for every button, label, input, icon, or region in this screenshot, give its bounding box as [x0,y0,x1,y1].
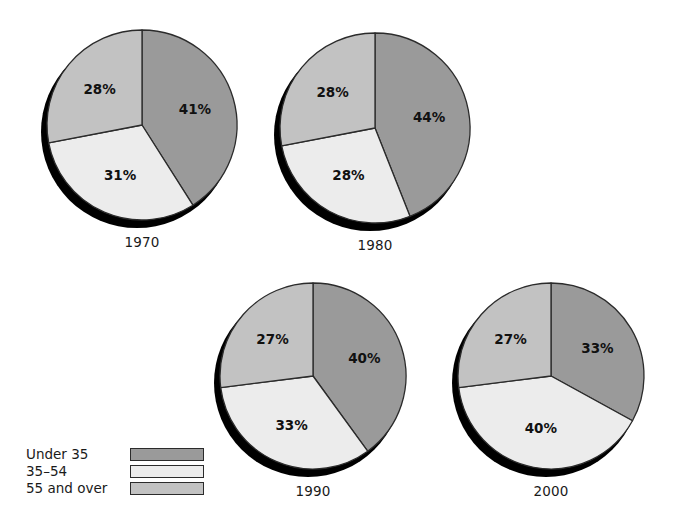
legend-label-55-and-over: 55 and over [26,480,107,496]
slice-value-label: 28% [83,81,116,97]
pie-svg-2000: 33%40%27% [436,261,666,491]
legend-item-35-54: 35–54 [26,463,107,479]
pie-svg-1990: 40%33%27% [198,261,428,491]
legend-item-under-35: Under 35 [26,446,107,462]
pie-year-label-1990: 1990 [253,483,373,499]
chart-legend: Under 35 35–54 55 and over [26,446,107,497]
slice-value-label: 41% [179,101,212,117]
pie-year-label-1970: 1970 [82,234,202,250]
slice-value-label: 31% [104,167,137,183]
legend-swatch-55-and-over [130,482,204,495]
pie-year-label-2000: 2000 [491,483,611,499]
legend-swatch-35-54 [130,465,204,478]
pie-chart-1990: 40%33%27% [198,261,428,491]
pie-chart-2000: 33%40%27% [436,261,666,491]
pie-svg-1970: 41%31%28% [25,8,259,242]
slice-value-label: 40% [348,350,381,366]
slice-value-label: 27% [256,331,289,347]
slice-value-label: 28% [332,167,365,183]
slice-value-label: 40% [525,420,558,436]
slice-value-label: 44% [413,109,446,125]
slice-value-label: 28% [316,84,349,100]
pie-year-label-1980: 1980 [315,237,435,253]
legend-item-55-and-over: 55 and over [26,480,107,496]
slice-value-label: 33% [275,417,308,433]
pie-chart-1970: 41%31%28% [25,8,259,242]
legend-label-under-35: Under 35 [26,446,88,462]
pie-svg-1980: 44%28%28% [258,11,492,245]
pie-chart-figure: 41%31%28%197044%28%28%198040%33%27%19903… [0,0,682,511]
legend-swatch-under-35 [130,448,204,461]
pie-chart-1980: 44%28%28% [258,11,492,245]
legend-label-35-54: 35–54 [26,463,67,479]
slice-value-label: 27% [494,331,527,347]
slice-value-label: 33% [581,340,614,356]
